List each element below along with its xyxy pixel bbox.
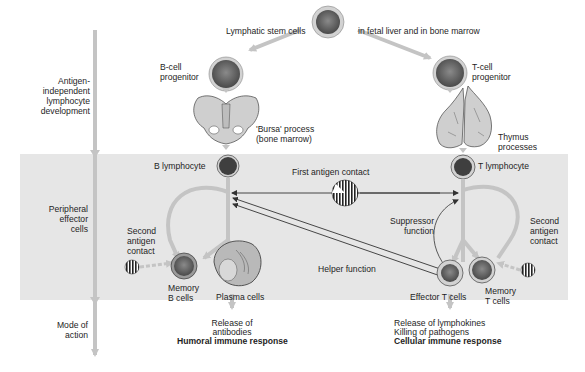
- timeline-arrowhead-1: [90, 150, 100, 158]
- b-progenitor-cell: [209, 57, 243, 91]
- b-lymphocyte-label: B lymphocyte: [154, 161, 206, 171]
- timeline-arrowhead-2: [90, 297, 100, 305]
- effector-t-cell: [437, 260, 463, 286]
- helper-label: Helper function: [318, 264, 376, 274]
- second-antigen-t-arrow: [498, 263, 520, 270]
- cellular-response-label: Cellular immune response: [394, 336, 501, 346]
- humoral-response-label: Humoral immune response: [177, 336, 288, 346]
- stem-location-label: in fetal liver and in bone marrow: [358, 26, 480, 36]
- memory-t-cell: [469, 257, 495, 283]
- b-lymphocyte-cell: [217, 155, 239, 177]
- stage-label-antigen-independent: Antigen- independent lymphocyte developm…: [20, 76, 90, 116]
- plasma-cell: [214, 241, 261, 286]
- second-antigen-b-arrow: [140, 263, 172, 267]
- effector-t-label: Effector T cells: [410, 292, 466, 302]
- first-antigen-icon: [332, 180, 358, 206]
- suppressor-label: Suppressor function: [356, 216, 434, 236]
- second-antigen-t-label: Second antigen contact: [530, 216, 559, 246]
- t-lymphocyte-cell: [451, 155, 475, 179]
- second-antigen-b-label: Second antigen contact: [127, 226, 156, 256]
- t-progenitor-cell: [433, 56, 467, 90]
- bursa-label: 'Bursa' process (bone marrow): [256, 124, 314, 144]
- timeline-axis: [90, 30, 100, 355]
- stage-label-peripheral: Peripheral effector cells: [20, 204, 88, 234]
- memory-t-label: Memory T cells: [485, 286, 516, 306]
- stage-label-mode-of-action: Mode of action: [20, 320, 88, 340]
- t-progenitor-label: T-cell progenitor: [472, 62, 511, 82]
- plasma-label: Plasma cells: [216, 292, 264, 302]
- pelvis-bone-icon: [194, 96, 259, 144]
- immune-diagram: Antigen- independent lymphocyte developm…: [0, 0, 585, 372]
- to-memory-t-arrow: [463, 240, 478, 258]
- second-antigen-t-icon: [521, 263, 535, 277]
- first-antigen-label: First antigen contact: [292, 167, 369, 177]
- stem-cell: [312, 6, 344, 38]
- diagram-art: [0, 0, 585, 372]
- b-progenitor-label: B-cell progenitor: [160, 62, 199, 82]
- thymus-label: Thymus processes: [498, 132, 537, 152]
- thymus-icon: [437, 86, 492, 148]
- memory-b-label: Memory B cells: [168, 283, 199, 303]
- memory-b-cell: [171, 253, 197, 279]
- stem-cells-label: Lymphatic stem cells: [226, 26, 305, 36]
- second-antigen-b-icon: [125, 260, 139, 274]
- t-lymphocyte-label: T lymphocyte: [478, 161, 529, 171]
